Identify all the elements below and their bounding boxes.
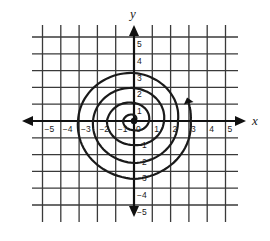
y-tick-label: 2: [137, 89, 142, 99]
x-tick-label: 1: [154, 124, 159, 134]
origin-dot: [131, 118, 137, 124]
x-tick-label: −1: [118, 124, 128, 134]
x-tick-label: −4: [63, 124, 73, 134]
x-tick-label: −3: [81, 124, 91, 134]
spiral-graph: −5−4−3−2−101234554321−1−2−3−4−5 x y: [0, 0, 270, 241]
x-axis-right-arrow-icon: [235, 116, 246, 126]
y-tick-label: 5: [137, 39, 142, 49]
y-axis-top-arrow-icon: [129, 25, 139, 36]
x-tick-label: 5: [228, 124, 233, 134]
y-tick-label: −5: [137, 207, 147, 217]
x-tick-label: −5: [45, 124, 55, 134]
x-axis-label: x: [251, 113, 258, 128]
tick-labels: −5−4−3−2−101234554321−1−2−3−4−5: [45, 39, 233, 217]
x-axis-left-arrow-icon: [22, 116, 33, 126]
y-tick-label: 1: [137, 106, 142, 116]
y-tick-label: 4: [137, 56, 142, 66]
x-tick-label: 4: [209, 124, 214, 134]
y-tick-label: −4: [137, 190, 147, 200]
y-axis-label: y: [128, 6, 136, 21]
